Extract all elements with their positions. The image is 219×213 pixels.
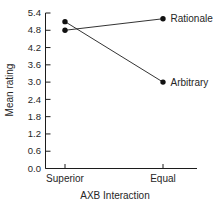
y-tick-label: 4.8 — [28, 24, 41, 35]
data-point-rationale — [160, 16, 165, 21]
x-tick-label: Superior — [46, 173, 84, 184]
plot-area: 0.00.61.21.82.43.03.64.24.85.4SuperiorEq… — [0, 0, 219, 213]
series-line-arbitrary — [65, 22, 163, 82]
y-tick-label: 2.4 — [28, 94, 41, 105]
y-tick-label: 3.0 — [28, 76, 41, 87]
x-tick-label: Equal — [150, 173, 176, 184]
data-point-rationale — [62, 28, 67, 33]
data-point-arbitrary — [62, 19, 67, 24]
data-point-arbitrary — [160, 79, 165, 84]
y-tick-label: 5.4 — [28, 7, 41, 18]
y-axis-title: Mean rating — [4, 10, 16, 170]
y-tick-label: 0.6 — [28, 145, 41, 156]
axis-line — [46, 13, 198, 169]
y-tick-label: 3.6 — [28, 59, 41, 70]
y-tick-label: 4.2 — [28, 42, 41, 53]
series-label-arbitrary: Arbitrary — [171, 77, 209, 88]
y-tick-label: 1.2 — [28, 128, 41, 139]
x-axis-title: AXB Interaction — [30, 190, 200, 202]
series-label-rationale: Rationale — [171, 13, 214, 24]
line-chart-figure: 0.00.61.21.82.43.03.64.24.85.4SuperiorEq… — [0, 0, 219, 213]
y-tick-label: 0.0 — [28, 163, 41, 174]
series-line-rationale — [65, 19, 163, 31]
y-tick-label: 1.8 — [28, 111, 41, 122]
